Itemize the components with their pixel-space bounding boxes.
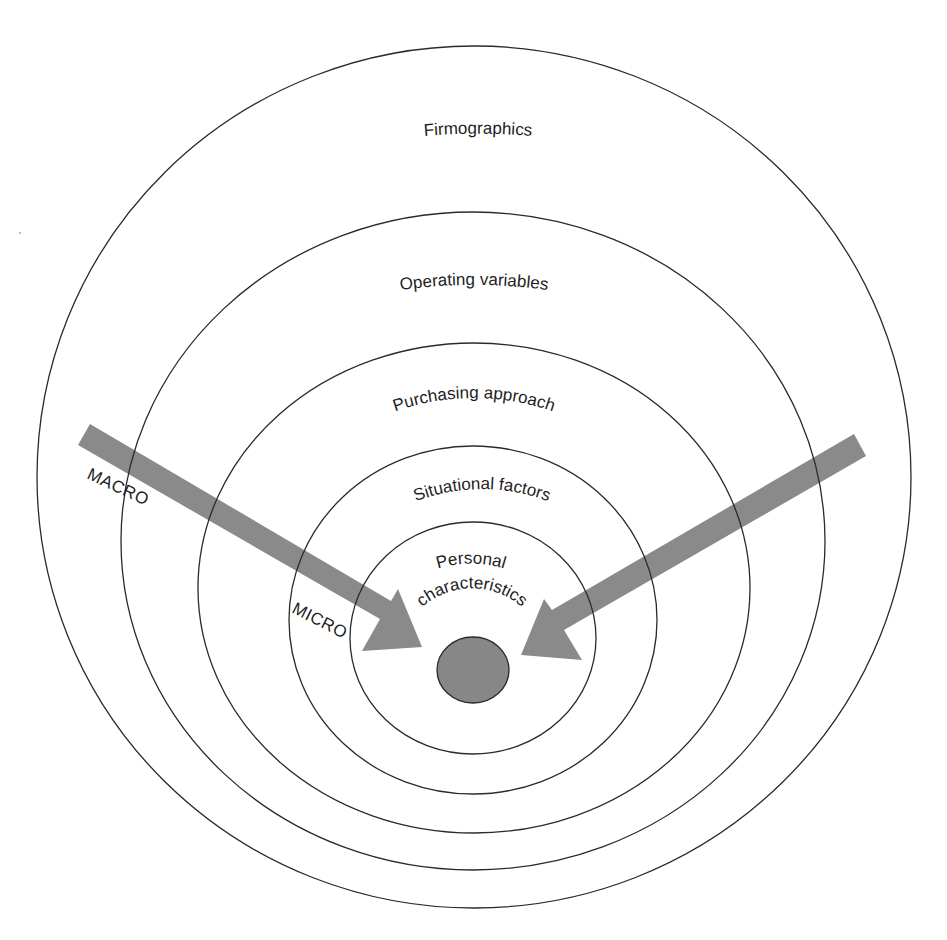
label-characteristics: characteristics	[413, 573, 531, 610]
label-operating-variables: Operating variables	[398, 270, 549, 294]
label-firmographics: Firmographics	[423, 119, 533, 140]
ring-operating-variables	[121, 212, 825, 870]
label-personal: Personal	[434, 548, 508, 572]
speck-mark	[19, 232, 21, 234]
ring-situational-factors	[289, 446, 657, 794]
macro-arrow	[78, 424, 422, 651]
core-target-icon	[437, 637, 509, 703]
label-micro: MICRO	[289, 599, 350, 643]
label-purchasing-approach: Purchasing approach	[390, 383, 557, 415]
label-situational-factors: Situational factors	[411, 474, 554, 505]
segmentation-diagram: Firmographics Operating variables Purcha…	[0, 0, 947, 940]
right-arrow	[521, 434, 866, 660]
